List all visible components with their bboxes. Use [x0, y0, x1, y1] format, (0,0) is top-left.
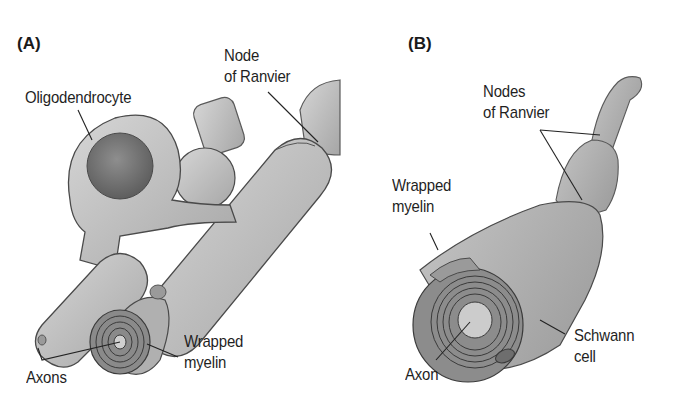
panel-b-label: (B) — [408, 34, 432, 54]
panel-a-artwork — [35, 80, 340, 374]
label-wrapped-myelin-b-line2: myelin — [392, 197, 434, 216]
label-schwann-line2: cell — [574, 347, 596, 366]
label-oligodendrocyte: Oligodendrocyte — [25, 88, 131, 107]
label-wrapped-myelin-a-line1: Wrapped — [184, 332, 243, 351]
panel-a-label: (A) — [17, 34, 41, 54]
label-nodes-line1: Nodes — [483, 82, 525, 101]
label-node-line2: of Ranvier — [224, 67, 290, 86]
diagram-artwork — [0, 0, 674, 408]
label-axons: Axons — [26, 368, 67, 387]
label-schwann-line1: Schwann — [574, 326, 634, 345]
label-nodes-line2: of Ranvier — [483, 103, 549, 122]
myelin-bulge — [175, 148, 235, 208]
label-node-line1: Node — [224, 46, 259, 65]
label-wrapped-myelin-b-line1: Wrapped — [392, 176, 451, 195]
label-wrapped-myelin-a-line2: myelin — [184, 353, 226, 372]
myelination-diagram: (A) (B) Oligodendrocyte Node of Ranvier … — [0, 0, 674, 408]
label-axon: Axon — [405, 365, 438, 384]
